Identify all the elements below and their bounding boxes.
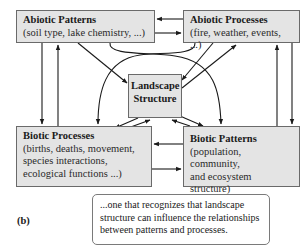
node-title-line1: Landscape	[131, 80, 179, 93]
node-description-line1: (births, deaths, movement,	[23, 143, 145, 156]
caption-line2: structure can influence the relationship…	[100, 212, 262, 225]
node-abiotic-patterns: Abiotic Patterns (soil type, lake chemis…	[16, 10, 155, 43]
node-description-line3: ecological functions ...)	[23, 168, 145, 181]
node-title: Biotic Processes	[23, 130, 145, 143]
node-biotic-patterns: Biotic Patterns (population, community, …	[183, 126, 300, 187]
caption-line3: between patterns and processes.	[100, 224, 262, 237]
caption-line1: ...one that recognizes that landscape	[100, 199, 262, 212]
caption-box: ...one that recognizes that landscape st…	[92, 194, 270, 245]
node-description-line2: species interactions,	[23, 155, 145, 168]
node-title: Abiotic Patterns	[23, 14, 148, 27]
node-description-line2: and ecosystem structure)	[190, 171, 293, 196]
node-biotic-processes: Biotic Processes (births, deaths, moveme…	[16, 126, 152, 187]
node-description: (fire, weather, events, ...)	[190, 27, 293, 52]
arrow-landscape-to-biopat	[180, 116, 203, 126]
node-title: Abiotic Processes	[190, 14, 293, 27]
node-title-line2: Structure	[131, 93, 179, 106]
node-title: Biotic Patterns	[190, 133, 293, 146]
panel-label: (b)	[17, 215, 30, 226]
node-description-line1: (population, community,	[190, 146, 293, 171]
node-landscape-structure: Landscape Structure	[128, 74, 182, 118]
node-abiotic-processes: Abiotic Processes (fire, weather, events…	[183, 10, 300, 43]
node-description: (soil type, lake chemistry, ...)	[23, 27, 148, 40]
